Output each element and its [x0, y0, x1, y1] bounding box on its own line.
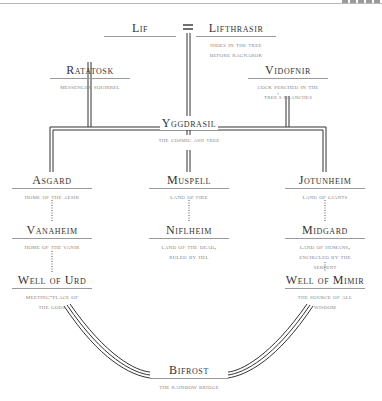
node-rule: [150, 378, 228, 379]
node-lif: Lif: [104, 21, 176, 40]
node-title: Well of Mimir: [285, 273, 365, 287]
node-rule: [285, 288, 365, 289]
node-well-of-mimir: Well of Mimir The source of all wisdom: [285, 273, 365, 312]
node-rule: [285, 188, 365, 189]
node-ratatosk: Ratatosk Messenger squirrel: [50, 63, 130, 92]
node-vidofnir: Vidofnir Cock perched in the tree's bran…: [248, 63, 328, 102]
node-desc: Cock perched in the tree's branches: [248, 82, 328, 102]
node-rule: [12, 188, 92, 189]
node-desc: Home of the Aesir: [12, 192, 92, 202]
node-title: Midgard: [285, 223, 365, 237]
node-well-of-urd: Well of Urd Meeting-place of the gods: [12, 273, 92, 312]
node-title: Lif: [104, 21, 176, 35]
node-yggdrasil: Yggdrasil The cosmic ash tree: [144, 113, 234, 145]
node-niflheim: Niflheim Land of the dead, ruled by Hel: [149, 223, 229, 262]
node-title: Vanaheim: [12, 223, 92, 237]
node-rule: [104, 36, 176, 37]
node-title: Jotunheim: [285, 173, 365, 187]
node-desc: Hides in the tree before Ragnarok: [196, 40, 276, 60]
node-desc: Land of giants: [285, 192, 365, 202]
node-title: Vidofnir: [248, 63, 328, 77]
node-midgard: Midgard Land of humans, encircled by the…: [285, 223, 365, 272]
node-jotunheim: Jotunheim Land of giants: [285, 173, 365, 202]
node-muspell: Muspell Land of fire: [149, 173, 229, 202]
node-desc: The source of all wisdom: [285, 292, 365, 312]
node-desc: The rainbow bridge: [150, 382, 228, 392]
node-title: Muspell: [149, 173, 229, 187]
node-desc: Land of humans, encircled by the serpent: [285, 242, 365, 272]
node-title: Asgard: [12, 173, 92, 187]
node-title: Ratatosk: [50, 63, 130, 77]
node-desc: Home of the Vanir: [12, 242, 92, 252]
node-rule: [196, 36, 276, 37]
node-title: Bifrost: [150, 363, 228, 377]
node-desc: Meeting-place of the gods: [12, 292, 92, 312]
yggdrasil-diagram: Lif Lifthrasir Hides in the tree before …: [0, 0, 382, 401]
node-asgard: Asgard Home of the Aesir: [12, 173, 92, 202]
node-rule: [285, 238, 365, 239]
node-rule: [149, 238, 229, 239]
node-lifthrasir: Lifthrasir Hides in the tree before Ragn…: [196, 21, 276, 60]
node-desc: Land of the dead, ruled by Hel: [149, 242, 229, 262]
node-title: Lifthrasir: [196, 21, 276, 35]
node-rule: [50, 78, 130, 79]
node-desc: Messenger squirrel: [50, 82, 130, 92]
node-rule: [12, 288, 92, 289]
node-desc: Land of fire: [149, 192, 229, 202]
node-rule: [149, 188, 229, 189]
node-title: Well of Urd: [12, 273, 92, 287]
node-vanaheim: Vanaheim Home of the Vanir: [12, 223, 92, 252]
node-title: Yggdrasil: [160, 116, 219, 130]
node-rule: [12, 238, 92, 239]
node-title: Niflheim: [149, 223, 229, 237]
node-desc: The cosmic ash tree: [144, 135, 234, 145]
node-rule: [248, 78, 328, 79]
node-bifrost: Bifrost The rainbow bridge: [150, 363, 228, 392]
